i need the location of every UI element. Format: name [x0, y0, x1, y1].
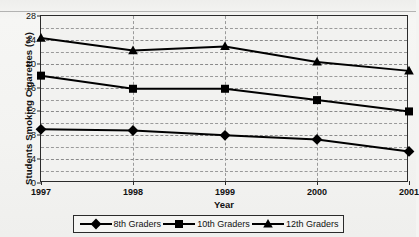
plot-area: 0481216202428 19971998199920002001 [40, 15, 408, 182]
series-layer [41, 16, 409, 183]
legend-item-label: 10th Graders [197, 219, 250, 229]
data-point-square-marker-icon [405, 107, 413, 115]
x-axis-tick-mark [409, 181, 410, 185]
data-point-diamond-marker-icon [128, 125, 139, 136]
diamond-marker-icon [79, 218, 113, 230]
data-point-square-marker-icon [37, 72, 45, 80]
triangle-marker-icon [251, 218, 285, 230]
series-line [41, 76, 409, 112]
legend-item[interactable]: 8th Graders [79, 218, 162, 230]
data-point-diamond-marker-icon [220, 130, 231, 141]
series-10th-graders [37, 72, 413, 116]
x-axis-tick-label: 2000 [307, 187, 327, 197]
legend-item[interactable]: 12th Graders [251, 218, 339, 230]
legend-item-label: 8th Graders [114, 219, 162, 229]
x-axis-title: Year [40, 199, 408, 210]
series-8th-graders [36, 124, 415, 157]
square-marker-icon [162, 218, 196, 230]
data-point-square-marker-icon [129, 85, 137, 93]
series-12th-graders [36, 33, 414, 74]
x-axis-tick-label: 1999 [215, 187, 235, 197]
x-axis-tick-label: 1997 [31, 187, 51, 197]
data-point-diamond-marker-icon [312, 134, 323, 145]
data-point-square-marker-icon [221, 85, 229, 93]
legend-item[interactable]: 10th Graders [162, 218, 250, 230]
x-axis-tick-label: 2001 [399, 187, 419, 197]
data-point-square-marker-icon [313, 96, 321, 104]
chart-legend: 8th Graders10th Graders12th Graders [73, 215, 344, 233]
legend-item-label: 12th Graders [286, 219, 339, 229]
x-axis-tick-label: 1998 [123, 187, 143, 197]
data-point-diamond-marker-icon [404, 146, 415, 157]
